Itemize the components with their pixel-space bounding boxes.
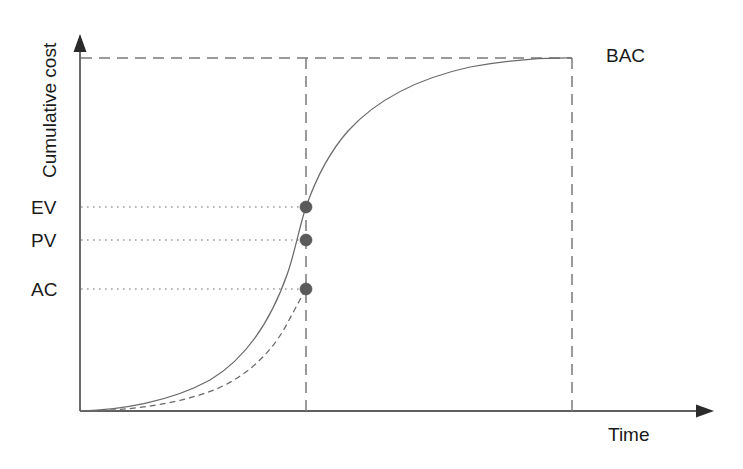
evm-s-curve-chart: Cumulative cost EV PV AC BAC Time	[0, 0, 743, 469]
y-axis-title: Cumulative cost	[39, 42, 60, 178]
pv-axis-label: PV	[31, 230, 57, 251]
planned-value-s-curve	[80, 58, 572, 411]
axes-group	[74, 34, 715, 418]
x-axis-arrow-icon	[696, 405, 714, 418]
leader-lines-group	[81, 207, 306, 289]
pv-marker	[300, 234, 312, 246]
reference-lines-group	[81, 58, 572, 411]
ev-marker	[300, 201, 312, 213]
bac-label: BAC	[606, 45, 645, 66]
ac-axis-label: AC	[31, 279, 57, 300]
labels-group: Cumulative cost EV PV AC BAC Time	[31, 42, 650, 445]
ac-marker	[300, 283, 312, 295]
curves-group	[80, 58, 572, 411]
actual-cost-curve	[80, 289, 306, 411]
y-axis-arrow-icon	[74, 34, 87, 52]
chart-canvas: Cumulative cost EV PV AC BAC Time	[0, 0, 743, 469]
ev-axis-label: EV	[31, 197, 57, 218]
x-axis-title: Time	[608, 424, 650, 445]
